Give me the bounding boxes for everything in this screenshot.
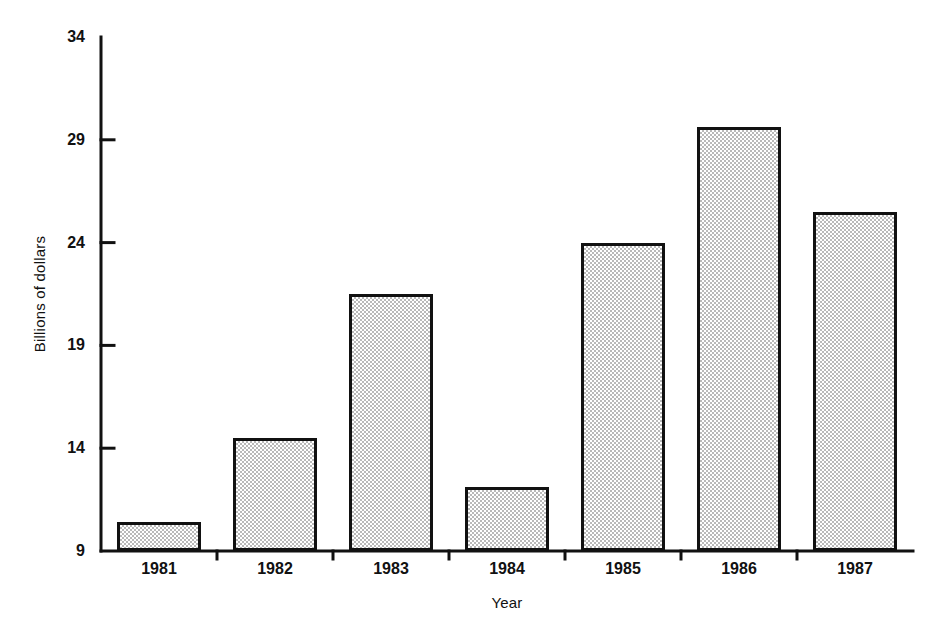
- x-axis-tick-label: 1983: [373, 560, 409, 578]
- x-axis-title: Year: [101, 594, 913, 611]
- bar: [697, 127, 782, 551]
- bar: [233, 438, 318, 551]
- bar: [117, 522, 202, 551]
- bar: [813, 212, 898, 551]
- x-axis-tick-label: 1987: [837, 560, 873, 578]
- bar: [581, 243, 666, 551]
- x-axis-tick-label: 1981: [141, 560, 177, 578]
- x-axis-tick-labels: 1981198219831984198519861987: [101, 560, 913, 586]
- bar: [349, 294, 434, 551]
- x-axis-tick-label: 1986: [721, 560, 757, 578]
- x-axis-tick-label: 1982: [257, 560, 293, 578]
- plot-area: [101, 37, 913, 551]
- bar: [465, 487, 550, 551]
- x-axis-tick-label: 1984: [489, 560, 525, 578]
- x-axis-tick-label: 1985: [605, 560, 641, 578]
- bar-chart-figure: Billions of dollars 91419242934 19811982…: [0, 0, 940, 637]
